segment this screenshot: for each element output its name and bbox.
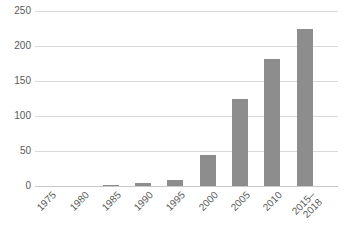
bar-1995 xyxy=(167,180,183,186)
y-tick-label: 50 xyxy=(0,145,31,157)
y-tick-label: 150 xyxy=(0,75,31,87)
y-tick-label: 200 xyxy=(0,40,31,52)
bar-chart: 0501001502002501975198019851990199520002… xyxy=(0,0,344,226)
gridline xyxy=(35,81,338,82)
bar-1990 xyxy=(135,183,151,186)
gridline xyxy=(35,11,338,12)
bar-2015–2018 xyxy=(297,29,313,187)
gridline xyxy=(35,116,338,117)
bar-1985 xyxy=(103,185,119,186)
y-tick-label: 0 xyxy=(0,180,31,192)
x-axis-line xyxy=(35,186,338,187)
x-tick-label: 1975 xyxy=(2,190,59,226)
bar-2010 xyxy=(264,59,280,186)
bar-2005 xyxy=(232,99,248,187)
gridline xyxy=(35,46,338,47)
y-tick-label: 250 xyxy=(0,5,31,17)
y-tick-label: 100 xyxy=(0,110,31,122)
plot-area: 0501001502002501975198019851990199520002… xyxy=(0,0,344,226)
gridline xyxy=(35,151,338,152)
bar-2000 xyxy=(200,155,216,186)
